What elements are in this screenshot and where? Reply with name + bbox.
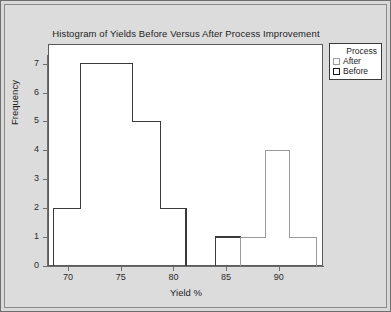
x-axis-title: Yield % (48, 287, 324, 298)
x-tick-mark (279, 267, 280, 271)
y-tick-mark (43, 64, 47, 65)
y-tick-mark (43, 121, 47, 122)
chart-title: Histogram of Yields Before Versus After … (48, 28, 324, 39)
y-axis-line (47, 55, 48, 267)
x-tick-mark (121, 267, 122, 271)
y-tick-label: 1 (17, 231, 39, 241)
y-tick-mark (43, 266, 47, 267)
y-tick-label: 0 (17, 260, 39, 270)
y-tick-label: 5 (17, 115, 39, 125)
legend-title: Process (333, 46, 378, 56)
y-tick-mark (43, 237, 47, 238)
x-tick-label: 70 (53, 272, 83, 282)
x-tick-label: 80 (158, 272, 188, 282)
legend-box: Process After Before (329, 43, 382, 80)
x-axis-line (47, 266, 324, 267)
y-tick-mark (43, 150, 47, 151)
x-tick-mark (173, 267, 174, 271)
legend-label-after: After (343, 56, 361, 66)
y-tick-mark (43, 93, 47, 94)
plot-panel (48, 44, 323, 266)
y-tick-label: 3 (17, 173, 39, 183)
y-tick-label: 2 (17, 202, 39, 212)
y-tick-label: 4 (17, 144, 39, 154)
legend-swatch-after-icon (333, 58, 340, 65)
y-axis-title: Frequency (9, 80, 20, 125)
x-tick-label: 90 (264, 272, 294, 282)
x-tick-mark (226, 267, 227, 271)
legend-item-before[interactable]: Before (333, 66, 378, 76)
y-tick-mark (43, 179, 47, 180)
x-tick-label: 75 (106, 272, 136, 282)
y-tick-label: 6 (17, 87, 39, 97)
y-tick-mark (43, 208, 47, 209)
legend-swatch-before-icon (333, 68, 340, 75)
y-tick-label: 7 (17, 58, 39, 68)
x-tick-mark (68, 267, 69, 271)
legend-label-before: Before (343, 66, 368, 76)
x-tick-label: 85 (211, 272, 241, 282)
legend-item-after[interactable]: After (333, 56, 378, 66)
chart-screenshot: Histogram of Yields Before Versus After … (0, 0, 391, 312)
